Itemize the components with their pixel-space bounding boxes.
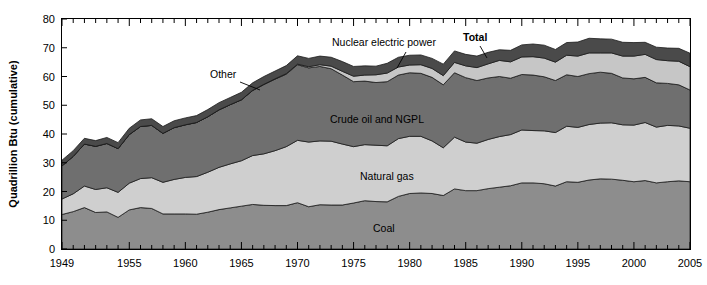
chart-figure: 01020304050607080 1949195519601965197019… [0, 0, 707, 285]
y-tick-label-70: 70 [43, 42, 55, 54]
y-tick-label-0: 0 [49, 243, 55, 255]
x-tick-label-1980: 1980 [397, 257, 421, 269]
y-tick-label-50: 50 [43, 99, 55, 111]
y-tick-label-20: 20 [43, 186, 55, 198]
x-tick-label-1965: 1965 [229, 257, 253, 269]
y-tick-label-10: 10 [43, 214, 55, 226]
x-tick-label-1975: 1975 [341, 257, 365, 269]
y-tick-label-80: 80 [43, 13, 55, 25]
annotation-other: Other [210, 68, 237, 80]
x-tick-label-1995: 1995 [566, 257, 590, 269]
x-tick-label-1990: 1990 [510, 257, 534, 269]
annotation-total: Total [463, 31, 487, 43]
x-tick-label-1949: 1949 [50, 257, 74, 269]
y-tick-label-40: 40 [43, 128, 55, 140]
annotation-nuclear-electric-power: Nuclear electric power [332, 36, 436, 48]
x-tick-label-1985: 1985 [453, 257, 477, 269]
figure-bottom-margin [0, 279, 707, 285]
x-tick-label-1960: 1960 [173, 257, 197, 269]
x-tick-label-1955: 1955 [117, 257, 141, 269]
x-tick-label-2000: 2000 [622, 257, 646, 269]
y-axis-tick-labels: 01020304050607080 [43, 13, 55, 255]
y-tick-label-30: 30 [43, 157, 55, 169]
y-tick-label-60: 60 [43, 71, 55, 83]
energy-production-stacked-area-chart: 01020304050607080 1949195519601965197019… [0, 0, 707, 285]
x-tick-label-2005: 2005 [678, 257, 702, 269]
annotation-natural-gas: Natural gas [360, 170, 414, 182]
x-tick-label-1970: 1970 [285, 257, 309, 269]
annotation-crude-oil-and-ngpl: Crude oil and NGPL [330, 113, 424, 125]
annotation-coal: Coal [373, 222, 395, 234]
y-axis-title: Quadrillion Btu (cumulative) [7, 60, 19, 208]
